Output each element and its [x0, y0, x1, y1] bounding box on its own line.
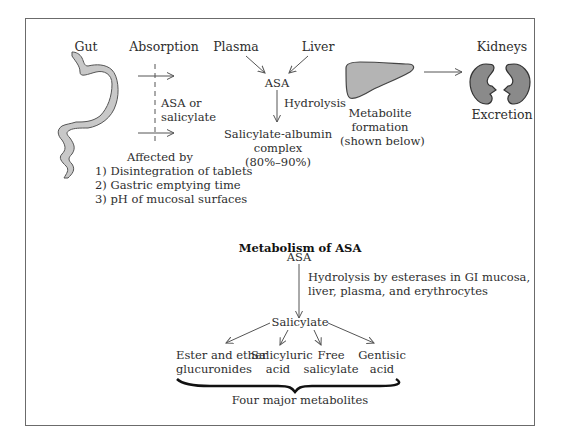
salicylate-node: Salicylate	[266, 315, 334, 329]
kidneys-icon	[470, 64, 530, 104]
esterase-hydrolysis-line1: Hydrolysis by esterases in GI mucosa,	[308, 270, 530, 284]
crossing-label-line2: salicylate	[161, 110, 216, 124]
kidneys-label: Kidneys	[472, 40, 532, 54]
metabolite-4-line1: Gentisic	[357, 348, 407, 362]
hydrolysis-label: Hydrolysis	[284, 96, 346, 110]
metabolite-4-line2: acid	[357, 362, 407, 376]
complex-line1: Salicylate-albumin	[218, 127, 338, 141]
factor-3: 3) pH of mucosal surfaces	[95, 192, 247, 206]
excretion-label: Excretion	[468, 108, 536, 122]
four-major-metabolites-label: Four major metabolites	[220, 393, 380, 407]
absorption-label: Absorption	[124, 40, 204, 54]
liver-to-asa-arrow	[289, 56, 308, 73]
complex-line3: (80%–90%)	[218, 155, 338, 169]
asa-node-top: ASA	[262, 76, 292, 90]
affected-by-title: Affected by	[110, 150, 210, 164]
metabolite-2-line2: acid	[251, 362, 305, 376]
esterase-hydrolysis-line2: liver, plasma, and erythrocytes	[308, 284, 488, 298]
diagram-artwork	[0, 0, 568, 445]
salicylate-to-glucuronides-arrow	[226, 323, 270, 343]
metabolite-1-line1: Ester and ether	[176, 348, 250, 362]
complex-line2: complex	[218, 141, 338, 155]
metabolite-formation-line3: (shown below)	[340, 134, 420, 148]
plasma-to-asa-arrow	[246, 56, 265, 73]
salicylate-to-gentisic-arrow	[328, 323, 374, 343]
metabolite-formation-line2: formation	[340, 120, 420, 134]
metabolite-1-line2: glucuronides	[176, 362, 250, 376]
asa-node-bottom: ASA	[284, 250, 314, 264]
gut-label: Gut	[66, 40, 106, 54]
salicylate-to-salicyluric-arrow	[280, 330, 288, 345]
metabolite-3-line1: Free	[303, 348, 359, 362]
liver-icon	[346, 62, 414, 99]
crossing-label-line1: ASA or	[161, 96, 202, 110]
liver-label: Liver	[296, 40, 340, 54]
metabolite-formation-line1: Metabolite	[340, 106, 420, 120]
metabolite-2-line1: Salicyluric	[251, 348, 305, 362]
factor-2: 2) Gastric emptying time	[95, 178, 241, 192]
metabolites-brace	[177, 379, 399, 392]
plasma-label: Plasma	[208, 40, 264, 54]
metabolite-3-line2: salicylate	[303, 362, 359, 376]
salicylate-to-free-arrow	[314, 330, 321, 345]
